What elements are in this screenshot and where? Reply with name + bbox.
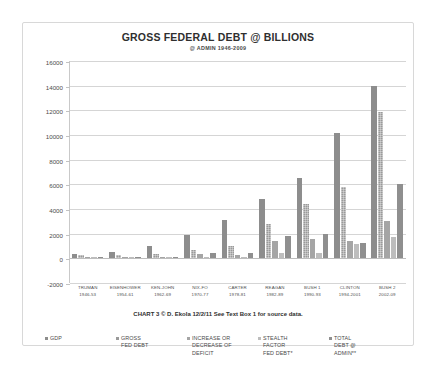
bar-stealth-factor-fed-debt [204,257,210,258]
x-axis-label-line: 1978-81 [219,292,256,299]
bar-gross-fed-debt [378,112,384,259]
bar-total-debt-admin [98,257,104,258]
x-axis-label-line: 1962-69 [144,292,181,299]
chart-frame: GROSS FEDERAL DEBT @ BILLIONS @ ADMIN 19… [22,22,414,346]
bar-gdp [184,235,190,258]
bar-gdp [259,199,265,258]
bar-gdp [72,254,78,259]
y-axis-tick-label: 0 [60,256,63,263]
legend-swatch-icon [258,337,261,340]
bar-increase-or-decrease-of-deficit [160,257,166,258]
bar-gdp [371,86,377,259]
legend-swatch-icon [116,337,119,340]
bar-increase-or-decrease-of-deficit [197,254,203,258]
x-axis-label-line: EISENHOWER [106,285,143,292]
plot-area: 1600014000120001000080006000400020000-20… [69,61,406,283]
legend-item[interactable]: STEALTHFACTORFED DEBT* [258,335,320,357]
x-axis-group-label: NIX-FO1970-77 [181,285,218,307]
x-axis-label-line: 1994-2001 [331,292,368,299]
bar-gross-fed-debt [78,255,84,258]
bar-gross-fed-debt [266,224,272,259]
bar-group [69,61,106,283]
legend-label-line: STEALTH [263,335,293,342]
x-axis-group-label: BUSH 11990-93 [294,285,331,307]
legend-label-line: ADMIN** [334,350,356,357]
chart-title: GROSS FEDERAL DEBT @ BILLIONS [23,31,413,43]
x-axis-group-label: BUSH 22002-09 [369,285,406,307]
legend-swatch-icon [329,337,332,340]
bars-layer [69,61,406,283]
bar-stealth-factor-fed-debt [129,257,135,258]
bar-group [256,61,293,283]
x-axis-label-line: 1982-89 [256,292,293,299]
legend-item[interactable]: GDP [45,335,107,357]
bar-total-debt-admin [173,257,179,258]
x-axis-group-label: CLINTON1994-2001 [331,285,368,307]
legend-label-line: INCREASE OR [192,335,232,342]
legend-label-line: GDP [50,335,62,342]
bar-group [294,61,331,283]
bar-group [106,61,143,283]
bar-total-debt-admin [285,236,291,259]
bar-total-debt-admin [135,257,141,258]
y-axis-tick-label: 10000 [46,132,63,139]
bar-gdp [297,178,303,258]
bar-increase-or-decrease-of-deficit [85,257,91,258]
legend-swatch-icon [187,337,190,340]
y-axis-tick-label: 6000 [49,182,63,189]
bar-increase-or-decrease-of-deficit [384,221,390,258]
x-axis-group-label: KEN-JOHN1962-69 [144,285,181,307]
bar-increase-or-decrease-of-deficit [272,241,278,258]
legend-label: GDP [50,335,62,342]
bar-increase-or-decrease-of-deficit [310,239,316,258]
y-axis-tick-label: -2000 [47,281,63,288]
bar-gdp [334,133,340,259]
bar-increase-or-decrease-of-deficit [235,255,241,259]
y-axis-tick-label: 2000 [49,231,63,238]
legend-item[interactable]: GROSSFED DEBT [116,335,178,357]
grid-line: -2000 [70,283,406,284]
x-axis-group-label: EISENHOWER1954-61 [106,285,143,307]
bar-group [144,61,181,283]
bar-gdp [147,246,153,258]
legend-item[interactable]: TOTALDEBT @ADMIN** [329,335,391,357]
chart-legend: GDPGROSSFED DEBTINCREASE ORDECREASE OFDE… [23,335,413,357]
bar-total-debt-admin [210,253,216,259]
x-axis-label-line: CLINTON [331,285,368,292]
bar-stealth-factor-fed-debt [91,257,97,258]
bar-stealth-factor-fed-debt [241,257,247,259]
legend-label-line: DECREASE OF [192,342,232,349]
legend-item[interactable]: INCREASE ORDECREASE OFDEFICIT [187,335,249,357]
x-axis-label-line: 1970-77 [181,292,218,299]
legend-swatch-icon [45,337,48,340]
bar-group [219,61,256,283]
bar-stealth-factor-fed-debt [354,244,360,258]
x-axis-group-label: REAGAN1982-89 [256,285,293,307]
y-axis-tick-label: 16000 [46,59,63,66]
bar-stealth-factor-fed-debt [279,253,285,259]
bar-group [181,61,218,283]
x-axis-label-line: CARTER [219,285,256,292]
bar-gross-fed-debt [191,250,197,259]
x-axis-label-line: BUSH 2 [369,285,406,292]
y-axis-tick-label: 14000 [46,83,63,90]
bar-gross-fed-debt [341,187,347,259]
bar-gdp [109,252,115,259]
x-axis-group-label: TRUMAN1946-53 [69,285,106,307]
legend-label: TOTALDEBT @ADMIN** [334,335,356,357]
bar-group [331,61,368,283]
legend-label-line: GROSS [121,335,148,342]
bar-stealth-factor-fed-debt [166,257,172,258]
x-axis-label-line: BUSH 1 [294,285,331,292]
bar-group [369,61,406,283]
x-axis-label-line: 1990-93 [294,292,331,299]
legend-label: STEALTHFACTORFED DEBT* [263,335,293,357]
bar-total-debt-admin [323,234,329,258]
legend-label-line: TOTAL [334,335,356,342]
legend-label-line: FACTOR [263,342,293,349]
legend-label: GROSSFED DEBT [121,335,148,350]
legend-label: INCREASE ORDECREASE OFDEFICIT [192,335,232,357]
bar-gdp [222,220,228,258]
bar-increase-or-decrease-of-deficit [347,241,353,258]
x-axis-labels: TRUMAN1946-53EISENHOWER1954-61KEN-JOHN19… [69,285,406,307]
